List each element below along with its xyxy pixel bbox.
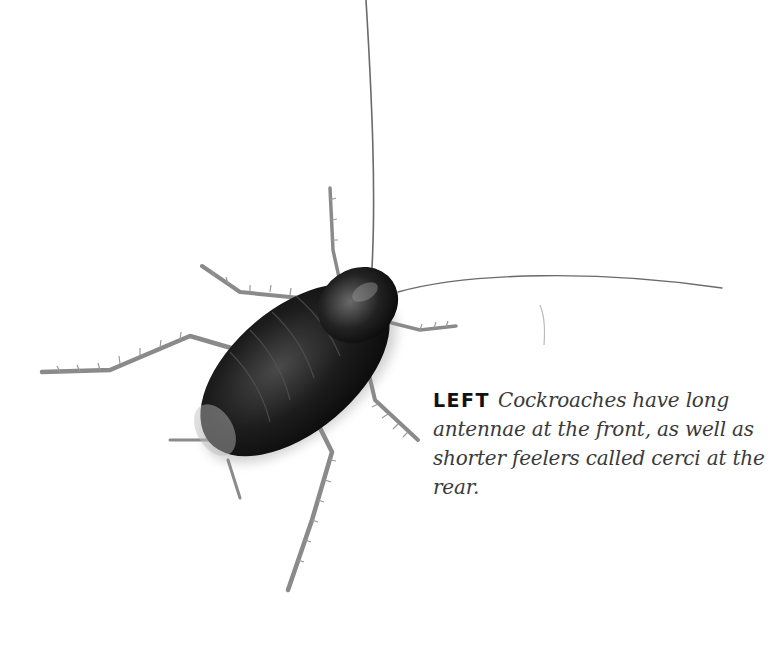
caption-label: LEFT: [433, 389, 490, 411]
stray-mark: [540, 305, 545, 345]
antennae: [366, 0, 722, 292]
cockroach-photo: [0, 0, 770, 647]
cockroach-body: [169, 251, 420, 490]
figure-caption: LEFTCockroaches have long antennae at th…: [433, 386, 770, 502]
